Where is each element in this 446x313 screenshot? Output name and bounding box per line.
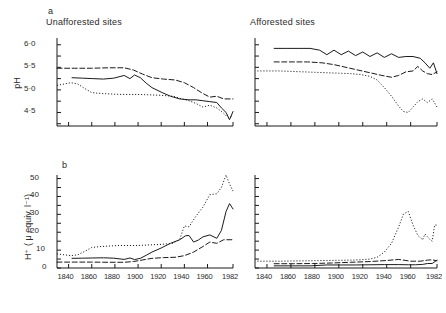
series-dotted-afforested-ph xyxy=(257,71,437,113)
x-tick-left-1900: 1900 xyxy=(127,272,143,281)
series-dashed-unafforested-h xyxy=(57,240,233,263)
series-dashed-afforested-h xyxy=(274,259,437,263)
x-tick-right-1982: 1982 xyxy=(426,272,442,281)
figure-container: a Unafforested sites Afforested sites b … xyxy=(0,0,446,313)
x-tick-right-1920: 1920 xyxy=(352,272,368,281)
x-tick-right-1900: 1900 xyxy=(328,272,344,281)
x-tick-left-1940: 1940 xyxy=(173,272,189,281)
x-tick-right-1880: 1880 xyxy=(304,272,320,281)
plot-svg xyxy=(0,0,446,313)
series-solid-afforested-ph xyxy=(274,48,437,73)
x-tick-left-1860: 1860 xyxy=(81,272,97,281)
panel-a-right xyxy=(255,38,437,126)
series-dotted-afforested-h xyxy=(257,211,437,261)
x-tick-right-1840: 1840 xyxy=(256,272,272,281)
x-tick-left-1960: 1960 xyxy=(197,272,213,281)
x-tick-left-1982: 1982 xyxy=(222,272,238,281)
panel-a-left xyxy=(57,38,233,126)
x-tick-right-1960: 1960 xyxy=(400,272,416,281)
series-dotted-unafforested-ph xyxy=(57,83,233,118)
panel-b-left xyxy=(57,175,233,268)
series-solid-unafforested-ph xyxy=(72,75,233,120)
x-tick-left-1880: 1880 xyxy=(104,272,120,281)
x-tick-right-1940: 1940 xyxy=(376,272,392,281)
x-tick-left-1920: 1920 xyxy=(150,272,166,281)
x-tick-right-1860: 1860 xyxy=(280,272,296,281)
panel-b-right xyxy=(255,175,437,268)
x-tick-left-1840: 1840 xyxy=(58,272,74,281)
series-dashed-afforested-ph xyxy=(274,62,437,77)
series-solid-unafforested-h xyxy=(72,204,233,260)
